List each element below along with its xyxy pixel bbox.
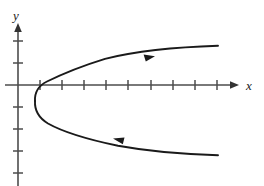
x-axis-label: x [245, 78, 252, 93]
curve-lower-branch [35, 101, 218, 155]
direction-arrow-upper-icon [144, 55, 155, 62]
y-axis-label: y [11, 8, 19, 23]
direction-arrow-lower-icon [113, 138, 125, 145]
parametric-curve-figure: y x [0, 0, 264, 186]
x-axis-arrowhead [230, 81, 239, 88]
curve-upper-branch [35, 46, 218, 101]
y-axis-arrowhead [14, 23, 22, 32]
